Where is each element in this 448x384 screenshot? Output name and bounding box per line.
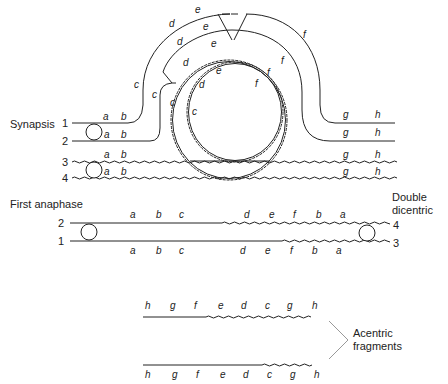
gene-label: g [343, 127, 349, 138]
acentric-label-line1: Acentric [353, 327, 393, 339]
gene-label: c [179, 245, 184, 256]
gene-label: d [177, 36, 183, 47]
gene-label: g [290, 369, 296, 380]
gene-label: a [130, 209, 136, 220]
gene-label: a [104, 129, 110, 140]
dicentric-bottom-wavy [282, 240, 390, 242]
fragment-bottom-wavy [262, 364, 312, 366]
gene-label: a [336, 245, 342, 256]
anaphase-number-2: 2 [58, 217, 64, 229]
centromere-left [81, 224, 97, 240]
first-anaphase-section: First anaphase Double dicentric 2 1 4 3 … [10, 191, 433, 256]
gene-label: e [269, 209, 275, 220]
gene-label: e [216, 65, 222, 76]
gene-label: h [145, 300, 151, 311]
gene-label: d [240, 245, 246, 256]
gene-label: e [220, 369, 226, 380]
gene-label: b [312, 245, 318, 256]
gene-label: b [121, 129, 127, 140]
anaphase-number-1: 1 [58, 235, 64, 247]
chromatid-number-4: 4 [62, 172, 68, 184]
gene-label: c [267, 369, 272, 380]
synapsis-label: Synapsis [10, 118, 55, 130]
gene-label: h [145, 369, 151, 380]
gene-label: g [172, 369, 178, 380]
gene-label: b [156, 209, 162, 220]
gene-label: d [244, 209, 250, 220]
acentric-fragments-section: Acentric fragments h g f e d c g h h g f… [143, 300, 402, 380]
gene-label: a [340, 209, 346, 220]
inversion-crossover-diagram: Synapsis 1 2 3 4 a b a b a b a b [0, 0, 448, 384]
gene-label: c [170, 97, 175, 108]
gene-label: d [241, 300, 247, 311]
gene-label: f [194, 300, 198, 311]
gene-label: c [152, 89, 157, 100]
gene-label: a [104, 166, 110, 177]
gene-label: a [103, 111, 109, 122]
gene-label: h [314, 369, 320, 380]
chromatid-number-3: 3 [62, 156, 68, 168]
gene-label: c [265, 300, 270, 311]
gene-label: e [218, 300, 224, 311]
gene-label: a [130, 245, 136, 256]
gene-label: b [156, 245, 162, 256]
gene-label: c [179, 209, 184, 220]
first-anaphase-label: First anaphase [10, 198, 83, 210]
gene-label: h [375, 166, 381, 177]
gene-label: b [121, 111, 127, 122]
gene-label: h [375, 109, 381, 120]
chromatid-2 [72, 30, 395, 141]
centromere-right [359, 225, 375, 241]
fragments-bracket [329, 321, 348, 359]
gene-label: d [183, 57, 189, 68]
gene-label: g [170, 300, 176, 311]
gene-label: e [265, 245, 271, 256]
centromere-1-2 [86, 124, 102, 140]
gene-label: e [211, 38, 217, 49]
gene-label: f [267, 67, 271, 78]
fragment-top-wavy [206, 316, 311, 318]
gene-label: d [199, 79, 205, 90]
gene-label: g [287, 300, 293, 311]
gene-label: a [104, 149, 110, 160]
gene-label: c [192, 106, 197, 117]
double-dicentric-label-line2: dicentric [392, 204, 433, 216]
gene-label: g [343, 149, 349, 160]
gene-label: g [343, 166, 349, 177]
gene-label: b [121, 166, 127, 177]
gene-label: g [343, 109, 349, 120]
synapsis-section: Synapsis 1 2 3 4 a b a b a b a b [10, 4, 397, 184]
acentric-label-line2: fragments [353, 340, 402, 352]
gene-label: b [316, 209, 322, 220]
gene-label: e [203, 21, 209, 32]
gene-label: b [121, 149, 127, 160]
gene-label: f [255, 78, 259, 89]
gene-label: d [169, 18, 175, 29]
anaphase-number-3: 3 [393, 237, 399, 249]
gene-label: d [243, 369, 249, 380]
anaphase-number-4: 4 [393, 219, 399, 231]
gene-label: f [196, 369, 200, 380]
gene-label: h [312, 300, 318, 311]
gene-label: f [293, 209, 297, 220]
double-dicentric-label-line1: Double [392, 191, 427, 203]
gene-label: f [290, 245, 294, 256]
chromatid-number-1: 1 [62, 117, 68, 129]
gene-label: f [303, 29, 307, 40]
gene-label: h [375, 149, 381, 160]
dicentric-top-wavy [222, 222, 390, 224]
gene-label: c [134, 79, 139, 90]
gene-label: f [281, 55, 285, 66]
gene-label: e [195, 4, 201, 15]
gene-label: h [375, 127, 381, 138]
chromatid-number-2: 2 [62, 135, 68, 147]
centromere-3-4 [86, 162, 102, 178]
